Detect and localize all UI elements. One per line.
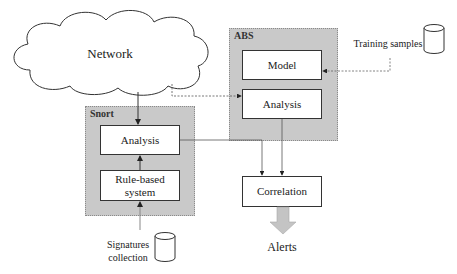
abs-group: ABS xyxy=(229,28,338,141)
database-icon xyxy=(424,25,444,54)
snort-analysis-box: Analysis xyxy=(100,125,180,155)
model-box: Model xyxy=(242,50,322,80)
training-samples-label: Training samples xyxy=(352,37,424,50)
signatures-collection-label: Signatures collection xyxy=(104,238,152,264)
abs-group-label: ABS xyxy=(234,30,253,41)
correlation-box: Correlation xyxy=(242,176,322,207)
snort-group-label: Snort xyxy=(90,108,114,119)
alerts-label: Alerts xyxy=(252,241,312,254)
database-icon xyxy=(155,233,175,262)
abs-analysis-box: Analysis xyxy=(242,89,322,119)
network-label: Network xyxy=(70,46,150,62)
rule-based-system-box: Rule-based system xyxy=(100,170,180,201)
